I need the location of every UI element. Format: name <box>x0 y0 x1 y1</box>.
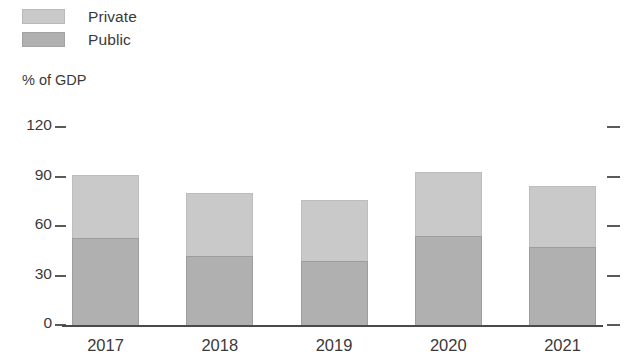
bar-segment-public <box>415 236 482 325</box>
y-axis-tick-label: 30 <box>6 265 52 283</box>
bar-2021 <box>529 186 596 325</box>
y-axis-tick-mark-right <box>607 225 620 227</box>
bar-segment-private <box>301 200 368 261</box>
y-axis-tick-mark-right <box>607 126 620 128</box>
bar-segment-private <box>529 186 596 247</box>
bar-segment-public <box>529 247 596 325</box>
stacked-bar-chart: Private Public % of GDP 0306090120201720… <box>0 0 641 362</box>
bar-2019 <box>301 200 368 325</box>
y-axis-tick-label: 0 <box>6 314 52 332</box>
bar-segment-public <box>72 238 139 325</box>
plot-area: 030609012020172018201920202021 <box>0 0 641 362</box>
y-axis-tick-mark-right <box>607 275 620 277</box>
x-axis-tick-label: 2021 <box>544 336 581 355</box>
x-axis-tick-label: 2017 <box>87 336 124 355</box>
x-axis-tick-label: 2019 <box>316 336 353 355</box>
bar-2018 <box>186 193 253 325</box>
y-axis-tick-mark <box>55 275 66 277</box>
bar-segment-public <box>301 261 368 325</box>
y-axis-tick-mark-right <box>607 324 620 326</box>
x-axis-tick-label: 2018 <box>201 336 238 355</box>
bar-2017 <box>72 175 139 325</box>
y-axis-tick-label: 120 <box>6 116 52 134</box>
bar-2020 <box>415 172 482 325</box>
y-axis-tick-mark-right <box>607 176 620 178</box>
bar-segment-private <box>415 172 482 236</box>
y-axis-tick-label: 90 <box>6 166 52 184</box>
y-axis-tick-mark <box>55 126 66 128</box>
bar-segment-public <box>186 256 253 325</box>
x-axis-tick-label: 2020 <box>430 336 467 355</box>
y-axis-tick-mark <box>55 176 66 178</box>
bar-segment-private <box>72 175 139 238</box>
x-axis-baseline <box>62 325 603 327</box>
y-axis-tick-label: 60 <box>6 215 52 233</box>
y-axis-tick-mark <box>55 225 66 227</box>
bar-segment-private <box>186 193 253 256</box>
